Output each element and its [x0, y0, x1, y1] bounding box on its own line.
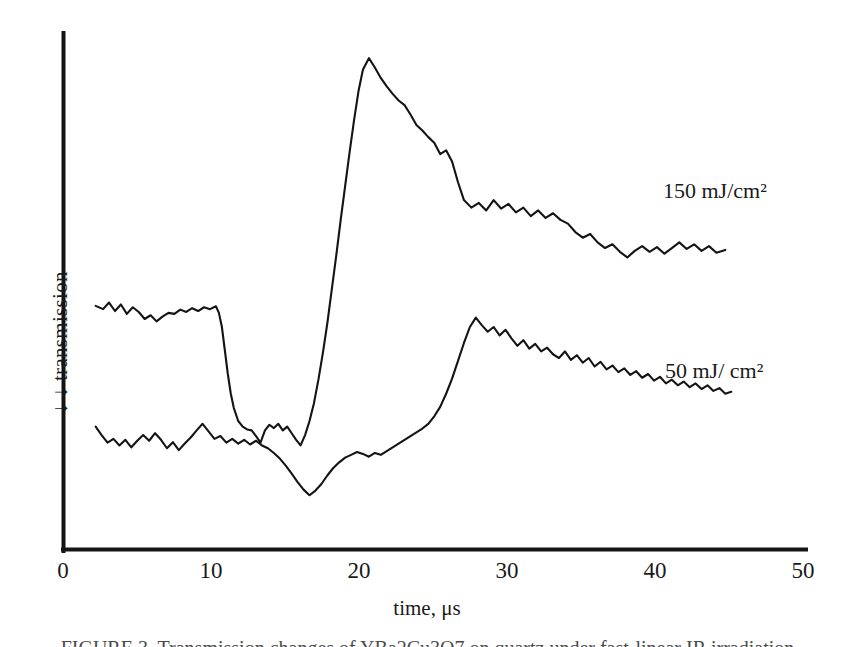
- curve-annotation-50: 50 mJ/ cm²: [665, 358, 763, 384]
- y-axis-title: ↓ ↓ transmission: [48, 213, 73, 473]
- curve-annotation-150: 150 mJ/cm²: [663, 178, 767, 204]
- x-tick-label-20: 20: [348, 558, 371, 584]
- x-axis-title: time, μs: [393, 596, 460, 621]
- figure-root: 0 10 20 30 40 50 time, μs ↓ ↓ transmissi…: [0, 0, 855, 647]
- x-tick-label-0: 0: [57, 558, 69, 584]
- x-tick-label-30: 30: [496, 558, 519, 584]
- x-tick-label-50: 50: [792, 558, 815, 584]
- axes-group: [63, 33, 806, 551]
- trace-150-mjcm2: [96, 58, 726, 445]
- data-traces: [96, 58, 732, 495]
- figure-caption: FIGURE 3. Transmission changes of YBa2Cu…: [61, 637, 795, 647]
- plot-canvas: [0, 0, 855, 647]
- x-tick-label-40: 40: [644, 558, 667, 584]
- x-tick-label-10: 10: [200, 558, 223, 584]
- trace-50-mjcm2: [96, 318, 732, 496]
